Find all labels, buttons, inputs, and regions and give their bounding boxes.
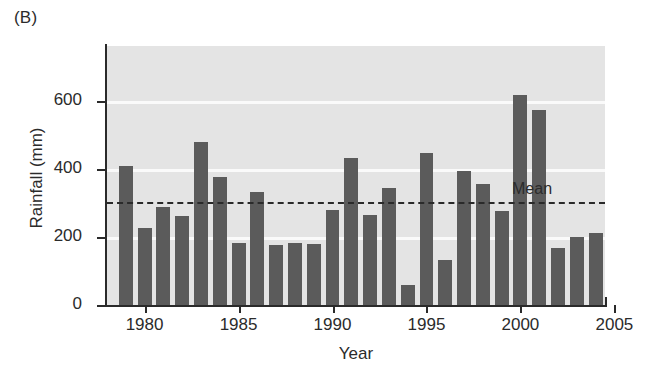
figure-panel-b: (B) Mean 0200400600 19801985199019952000… <box>0 0 666 382</box>
y-axis-tick-label: 0 <box>73 294 82 314</box>
x-axis-title: Year <box>107 344 605 364</box>
bar <box>589 233 603 305</box>
mean-line <box>107 202 605 204</box>
bar <box>513 95 527 305</box>
y-axis-tick <box>97 237 106 239</box>
bar <box>570 237 584 305</box>
bar <box>363 215 377 305</box>
bar <box>269 245 283 305</box>
x-axis-endcap <box>605 297 607 307</box>
x-axis-tick-label: 2000 <box>502 315 540 335</box>
x-axis-tick-label: 1990 <box>314 315 352 335</box>
bar <box>495 211 509 305</box>
bar <box>344 158 358 305</box>
mean-label: Mean <box>512 180 552 198</box>
bar <box>326 210 340 305</box>
y-axis-tick <box>97 101 106 103</box>
bar <box>438 260 452 305</box>
x-axis-tick <box>239 305 241 313</box>
plot-area <box>107 46 605 305</box>
x-axis-line <box>105 305 607 307</box>
x-axis-tick <box>145 305 147 313</box>
y-axis-title: Rainfall (mm) <box>27 78 47 278</box>
bar <box>175 216 189 305</box>
bar <box>457 171 471 305</box>
bar <box>307 244 321 305</box>
bar <box>119 166 133 305</box>
y-axis-tick-label: 200 <box>54 226 82 246</box>
x-axis-tick <box>333 305 335 313</box>
x-axis-tick-label: 1995 <box>408 315 446 335</box>
bar <box>250 192 264 305</box>
x-axis-tick-label: 1985 <box>220 315 258 335</box>
y-axis-tick-label: 400 <box>54 158 82 178</box>
x-axis-tick-label: 1980 <box>126 315 164 335</box>
bar <box>288 243 302 305</box>
y-axis-tick <box>97 169 106 171</box>
bar <box>194 142 208 305</box>
bar <box>382 188 396 305</box>
x-axis-tick-label: 2005 <box>595 315 633 335</box>
bar <box>401 285 415 305</box>
y-axis-tick <box>97 305 106 307</box>
panel-label: (B) <box>14 8 37 28</box>
gridline <box>107 101 605 104</box>
bar <box>532 110 546 305</box>
x-axis-tick <box>520 305 522 313</box>
x-axis-tick <box>614 305 616 313</box>
y-axis-line <box>105 44 107 307</box>
bar <box>138 228 152 305</box>
x-axis-tick <box>426 305 428 313</box>
bar <box>213 177 227 305</box>
bar <box>420 153 434 305</box>
bar <box>232 243 246 305</box>
bar <box>156 207 170 305</box>
bar <box>551 248 565 305</box>
y-axis-tick-label: 600 <box>54 90 82 110</box>
